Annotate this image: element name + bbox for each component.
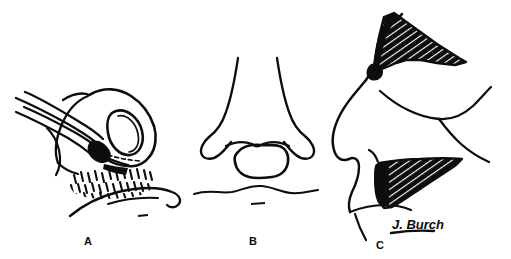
panel-label-a: A [84,235,92,247]
artist-signature: J. Burch [391,217,444,233]
surgical-illustration-svg: J. Burch A B C [0,0,511,259]
panel-label-b: B [249,235,257,247]
panel-label-c: C [376,239,384,251]
figure-root: J. Burch A B C [0,0,511,259]
